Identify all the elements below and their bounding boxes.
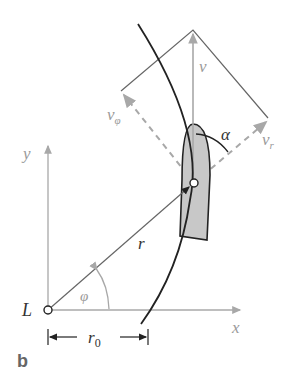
origin-label: L	[21, 300, 32, 320]
v-phi-label: vφ	[107, 105, 121, 126]
alpha-label: α	[221, 125, 231, 144]
v-r-label: vr	[262, 130, 275, 151]
x-axis-label: x	[231, 318, 240, 337]
radius-label: r	[138, 234, 145, 253]
radius-line	[48, 187, 189, 310]
vector-construction	[121, 30, 268, 118]
boat-navigation-diagram: v vφ vr α y x r φ L r0 b	[0, 0, 294, 381]
v-label: v	[199, 57, 207, 76]
boat-center-point	[190, 179, 198, 187]
r0-label: r0	[88, 328, 101, 350]
y-axis-label: y	[21, 144, 31, 163]
phi-label: φ	[80, 288, 88, 304]
origin-point	[44, 306, 52, 314]
phi-arc	[97, 270, 109, 309]
panel-label: b	[17, 351, 28, 371]
diagram-canvas: v vφ vr α y x r φ L r0 b	[0, 0, 294, 381]
